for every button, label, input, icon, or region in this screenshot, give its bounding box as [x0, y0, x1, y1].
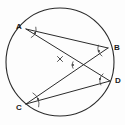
- angle-D-dot: [99, 78, 101, 80]
- angle-X-dot: [72, 64, 74, 66]
- vertex-label-b: B: [114, 43, 120, 52]
- angle-C-arc: [33, 93, 39, 107]
- vertex-label-d: D: [115, 76, 121, 85]
- angle-C-dot: [37, 98, 39, 100]
- angle-A-dot: [34, 32, 36, 34]
- angle-B-dot: [98, 50, 100, 52]
- chord-ab: [26, 29, 108, 48]
- vertex-label-c: C: [16, 103, 22, 112]
- vertex-label-a: A: [16, 22, 22, 31]
- chord-cb: [26, 48, 108, 104]
- geometry-canvas: A B D C: [0, 0, 125, 125]
- center-cross-mark: [58, 57, 63, 62]
- geometry-figure: A B D C: [0, 0, 125, 125]
- circle-outline: [6, 8, 114, 116]
